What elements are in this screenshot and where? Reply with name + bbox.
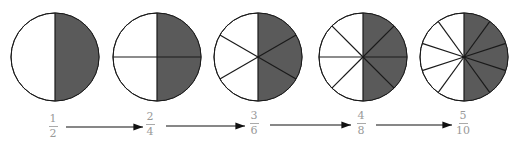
numerator: 3	[251, 109, 258, 122]
numerator: 5	[460, 109, 467, 122]
fraction-label-5-10: 5 10	[448, 110, 478, 137]
denominator: 6	[251, 124, 258, 137]
shaded-region	[55, 13, 99, 101]
denominator: 10	[456, 124, 470, 137]
fraction-circle-3-6	[214, 13, 302, 101]
fraction-label-1-2: 1 2	[38, 113, 68, 140]
numerator: 4	[358, 109, 365, 122]
denominator: 8	[358, 124, 365, 137]
fraction-circle-1-2	[11, 13, 99, 101]
shaded-region	[258, 13, 302, 101]
fraction-circle-2-4	[113, 13, 201, 101]
fraction-label-3-6: 3 6	[239, 110, 269, 137]
numerator: 2	[147, 110, 154, 123]
fraction-circle-4-8	[319, 13, 407, 101]
fraction-label-4-8: 4 8	[346, 110, 376, 137]
fraction-circle-5-10	[420, 13, 508, 101]
denominator: 2	[50, 127, 57, 140]
denominator: 4	[147, 125, 154, 138]
fraction-label-2-4: 2 4	[135, 111, 165, 138]
numerator: 1	[50, 112, 57, 125]
